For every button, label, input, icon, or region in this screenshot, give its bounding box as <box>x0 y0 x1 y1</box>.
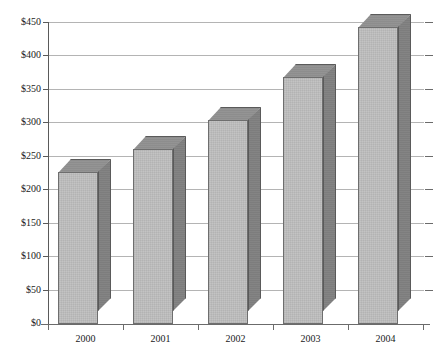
bar-side-face <box>173 136 186 311</box>
y-axis-labels: $450 $400 $350 $300 $250 $200 $150 $100 … <box>0 0 41 349</box>
y-axis-tick-label: $450 <box>1 17 41 27</box>
x-axis-tick-label: 2001 <box>123 333 198 344</box>
bar-side-face <box>248 107 261 311</box>
bar-front-face <box>208 120 248 324</box>
plot-area <box>48 22 424 324</box>
y-axis-tick-label: $100 <box>1 251 41 261</box>
y-axis-tick-label: $50 <box>1 285 41 295</box>
bar-2004 <box>358 14 411 324</box>
x-axis-tick-label: 2003 <box>273 333 348 344</box>
gridline-end-tick <box>425 22 433 23</box>
y-axis-tick-label: $0 <box>1 318 41 328</box>
gridline-end-tick <box>425 256 433 257</box>
y-axis-tick-label: $250 <box>1 151 41 161</box>
bar-front-face <box>133 149 173 324</box>
gridline-end-tick <box>425 156 433 157</box>
x-axis-tick <box>123 324 124 330</box>
y-axis-tick-label: $400 <box>1 50 41 60</box>
gridline-end-tick <box>425 55 433 56</box>
bar-2001 <box>133 136 186 324</box>
y-axis-tick-label: $300 <box>1 117 41 127</box>
y-axis-tick-label: $150 <box>1 218 41 228</box>
gridline-end-tick <box>425 223 433 224</box>
x-axis-tick <box>48 324 49 330</box>
x-axis-tick <box>348 324 349 330</box>
x-axis-tick-label: 2004 <box>348 333 423 344</box>
x-axis-tick <box>273 324 274 330</box>
bar-side-face <box>398 14 411 311</box>
bar-side-face <box>323 64 336 311</box>
x-axis-tick <box>423 324 424 330</box>
bar-2003 <box>283 64 336 324</box>
bar-side-face <box>98 159 111 311</box>
bar-2002 <box>208 107 261 324</box>
bar-front-face <box>58 172 98 324</box>
x-axis-tick-label: 2000 <box>48 333 123 344</box>
gridline-end-tick <box>425 290 433 291</box>
gridline-end-tick <box>425 122 433 123</box>
bar-chart: $450 $400 $350 $300 $250 $200 $150 $100 … <box>0 0 436 349</box>
bar-front-face <box>283 77 323 324</box>
bar-2000 <box>58 159 111 324</box>
y-axis-line <box>48 22 49 325</box>
y-axis-tick-label: $350 <box>1 84 41 94</box>
x-axis-line <box>41 324 430 325</box>
y-axis-tick-label: $200 <box>1 184 41 194</box>
x-axis-tick <box>198 324 199 330</box>
gridline-end-tick <box>425 89 433 90</box>
bar-front-face <box>358 27 398 324</box>
x-axis-tick-label: 2002 <box>198 333 273 344</box>
gridline-end-tick <box>425 189 433 190</box>
